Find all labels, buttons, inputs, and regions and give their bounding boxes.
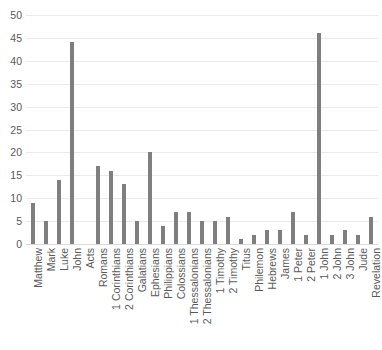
y-axis-tick-label: 40 bbox=[10, 56, 22, 67]
x-axis-tick: Philippians bbox=[156, 246, 169, 350]
x-axis-tick: 3 John bbox=[339, 246, 352, 350]
gridline bbox=[26, 244, 378, 245]
x-axis-tick: Jude bbox=[352, 246, 365, 350]
x-axis-tick: Mark bbox=[39, 246, 52, 350]
x-axis-tick: 1 Thessalonians bbox=[182, 246, 195, 350]
y-axis-tick-label: 30 bbox=[10, 101, 22, 112]
x-axis-tick: 2 Corinthians bbox=[117, 246, 130, 350]
bar[interactable] bbox=[122, 184, 126, 244]
bar-slot bbox=[222, 15, 235, 244]
bar-slot bbox=[143, 15, 156, 244]
x-axis-tick: 1 Peter bbox=[287, 246, 300, 350]
x-axis-tick: Titus bbox=[235, 246, 248, 350]
x-axis-tick: John bbox=[65, 246, 78, 350]
bar[interactable] bbox=[239, 239, 243, 244]
bar[interactable] bbox=[330, 235, 334, 244]
bar-slot bbox=[104, 15, 117, 244]
bar-slot bbox=[300, 15, 313, 244]
bar-slot bbox=[169, 15, 182, 244]
bar[interactable] bbox=[31, 203, 35, 244]
bar-slot bbox=[78, 15, 91, 244]
y-axis-tick-label: 50 bbox=[10, 10, 22, 21]
bar-slot bbox=[209, 15, 222, 244]
bar-slot bbox=[65, 15, 78, 244]
x-axis-tick: 2 Thessalonians bbox=[195, 246, 208, 350]
x-axis-tick: Colossians bbox=[169, 246, 182, 350]
bar[interactable] bbox=[135, 221, 139, 244]
y-axis-tick-label: 5 bbox=[16, 216, 22, 227]
x-axis-tick: Romans bbox=[91, 246, 104, 350]
bar-slot bbox=[26, 15, 39, 244]
bar-slot bbox=[352, 15, 365, 244]
x-axis-tick: Revelation bbox=[365, 246, 378, 350]
x-axis-labels: MatthewMarkLukeJohnActsRomans1 Corinthia… bbox=[26, 246, 378, 350]
bar[interactable] bbox=[317, 33, 321, 244]
x-axis-tick: 2 Peter bbox=[300, 246, 313, 350]
x-axis-tick: Galatians bbox=[130, 246, 143, 350]
bar[interactable] bbox=[304, 235, 308, 244]
bar-slot bbox=[117, 15, 130, 244]
bar[interactable] bbox=[291, 212, 295, 244]
y-axis-tick-label: 35 bbox=[10, 78, 22, 89]
bar[interactable] bbox=[278, 230, 282, 244]
y-axis-tick-label: 10 bbox=[10, 193, 22, 204]
bar-slot bbox=[39, 15, 52, 244]
bar-slot bbox=[52, 15, 65, 244]
bar-slot bbox=[313, 15, 326, 244]
bar-series bbox=[26, 15, 378, 244]
bar-slot bbox=[365, 15, 378, 244]
bar-slot bbox=[274, 15, 287, 244]
bar[interactable] bbox=[148, 152, 152, 244]
bar[interactable] bbox=[356, 235, 360, 244]
bar[interactable] bbox=[265, 230, 269, 244]
y-axis-tick-label: 0 bbox=[16, 239, 22, 250]
bar-slot bbox=[261, 15, 274, 244]
bar-slot bbox=[287, 15, 300, 244]
bar[interactable] bbox=[70, 42, 74, 244]
x-axis-tick-label: Revelation bbox=[371, 248, 382, 298]
x-axis-tick: Philemon bbox=[248, 246, 261, 350]
bar-slot bbox=[182, 15, 195, 244]
x-axis-tick: James bbox=[274, 246, 287, 350]
bar-slot bbox=[130, 15, 143, 244]
y-axis-labels: 05101520253035404550 bbox=[0, 15, 22, 244]
x-axis-tick: Luke bbox=[52, 246, 65, 350]
bar[interactable] bbox=[109, 171, 113, 244]
x-axis-tick: 1 Timothy bbox=[209, 246, 222, 350]
x-axis-tick: Acts bbox=[78, 246, 91, 350]
bar-slot bbox=[248, 15, 261, 244]
chart-title bbox=[0, 0, 382, 5]
bar[interactable] bbox=[187, 212, 191, 244]
bar[interactable] bbox=[252, 235, 256, 244]
y-axis-tick-label: 15 bbox=[10, 170, 22, 181]
x-axis-tick: Matthew bbox=[26, 246, 39, 350]
bar[interactable] bbox=[213, 221, 217, 244]
bar[interactable] bbox=[57, 180, 61, 244]
bar-slot bbox=[339, 15, 352, 244]
bar[interactable] bbox=[200, 221, 204, 244]
bar[interactable] bbox=[174, 212, 178, 244]
y-axis-tick-label: 45 bbox=[10, 33, 22, 44]
bar[interactable] bbox=[369, 217, 373, 244]
bar[interactable] bbox=[44, 221, 48, 244]
bar-slot bbox=[326, 15, 339, 244]
bar[interactable] bbox=[226, 217, 230, 244]
bar-slot bbox=[195, 15, 208, 244]
bar-chart: 05101520253035404550 MatthewMarkLukeJohn… bbox=[0, 0, 382, 350]
bar[interactable] bbox=[343, 230, 347, 244]
bar[interactable] bbox=[96, 166, 100, 244]
y-axis-tick-label: 20 bbox=[10, 147, 22, 158]
x-axis-tick: 1 John bbox=[313, 246, 326, 350]
x-axis-tick: Ephesians bbox=[143, 246, 156, 350]
bar-slot bbox=[235, 15, 248, 244]
x-axis-tick: 1 Corinthians bbox=[104, 246, 117, 350]
x-axis-tick: 2 Timothy bbox=[222, 246, 235, 350]
bar[interactable] bbox=[161, 226, 165, 244]
x-axis-tick: 2 John bbox=[326, 246, 339, 350]
y-axis-tick-label: 25 bbox=[10, 124, 22, 135]
x-axis-tick: Hebrews bbox=[261, 246, 274, 350]
bar-slot bbox=[156, 15, 169, 244]
plot-area bbox=[26, 15, 378, 244]
bar-slot bbox=[91, 15, 104, 244]
